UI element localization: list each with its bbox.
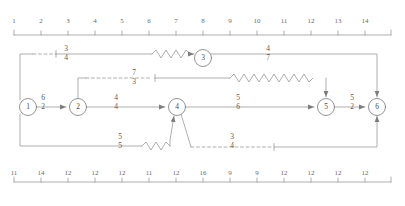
resistor-zigzag-top: [152, 50, 190, 58]
node-2-label: 2: [71, 100, 85, 114]
path-node3-to-node6: [211, 54, 377, 97]
node-5-label: 5: [319, 100, 333, 114]
edge-label-denominator: 5: [107, 141, 133, 150]
top-ruler-axis: [14, 30, 391, 35]
top-tick-label: 14: [355, 17, 375, 25]
edge-label-denominator: 6: [225, 102, 251, 111]
edge-label-numerator: 5: [225, 93, 251, 102]
bottom-tick-label: 12: [58, 169, 78, 177]
resistor-zigzag-bottom: [142, 142, 170, 150]
bottom-tick-label: 11: [139, 169, 159, 177]
edge-label-denominator: 2: [339, 102, 365, 111]
edge-label-denominator: 3: [121, 77, 147, 86]
top-tick-label: 1: [4, 17, 24, 25]
bottom-tick-label: 12: [112, 169, 132, 177]
edge-label-numerator: 6: [30, 93, 56, 102]
top-tick-label: 3: [58, 17, 78, 25]
edge-label-denominator: 4: [53, 53, 79, 62]
edge-label-denominator: 4: [103, 102, 129, 111]
bottom-tick-label: 12: [328, 169, 348, 177]
diagram-canvas: 1 2 3 4 5 6 7 8 9 10 11 12 13 14 11 14 1…: [0, 0, 405, 206]
top-tick-label: 7: [166, 17, 186, 25]
edge-label-1-to-2: 6 2: [30, 93, 56, 111]
edge-label-denominator: 2: [30, 102, 56, 111]
bottom-tick-label: 12: [166, 169, 186, 177]
node-3-label: 3: [196, 51, 210, 65]
edge-label-denominator: 7: [255, 53, 281, 62]
edge-label-node3-right: 4 7: [255, 44, 281, 62]
bottom-tick-label: 12: [301, 169, 321, 177]
edge-label-2-to-4: 4 4: [103, 93, 129, 111]
top-tick-label: 6: [139, 17, 159, 25]
node-6-label: 6: [370, 100, 384, 114]
top-tick-label: 10: [247, 17, 267, 25]
edge-label-numerator: 5: [339, 93, 365, 102]
edge-label-numerator: 5: [107, 132, 133, 141]
bottom-tick-label: 14: [31, 169, 51, 177]
node-4-label: 4: [170, 100, 184, 114]
top-tick-label: 2: [31, 17, 51, 25]
edge-label-numerator: 4: [103, 93, 129, 102]
edge-label-dashed-mid: 7 3: [121, 68, 147, 86]
resistor-zigzag-mid: [230, 74, 313, 82]
top-tick-label: 13: [328, 17, 348, 25]
bottom-tick-label: 9: [247, 169, 267, 177]
edge-label-4-to-5: 5 6: [225, 93, 251, 111]
edge-label-bottom-dashed: 3 4: [219, 132, 245, 150]
bottom-tick-label: 9: [220, 169, 240, 177]
edge-label-numerator: 3: [53, 44, 79, 53]
bottom-tick-label: 12: [355, 169, 375, 177]
bottom-tick-label: 11: [4, 169, 24, 177]
edge-label-numerator: 7: [121, 68, 147, 77]
path-bottom-branch: [20, 114, 174, 150]
edge-label-top-left: 3 4: [53, 44, 79, 62]
top-tick-label: 9: [220, 17, 240, 25]
top-tick-label: 12: [301, 17, 321, 25]
top-tick-label: 4: [85, 17, 105, 25]
bottom-ruler-axis: [14, 177, 391, 182]
edge-label-denominator: 4: [219, 141, 245, 150]
edge-label-5-to-6: 5 2: [339, 93, 365, 111]
bottom-tick-label: 12: [85, 169, 105, 177]
top-tick-label: 8: [193, 17, 213, 25]
top-tick-label: 11: [274, 17, 294, 25]
edge-label-numerator: 3: [219, 132, 245, 141]
top-tick-label: 5: [112, 17, 132, 25]
bottom-tick-label: 12: [274, 169, 294, 177]
bottom-tick-label: 16: [193, 169, 213, 177]
edge-label-numerator: 4: [255, 44, 281, 53]
edge-label-bottom-left: 5 5: [107, 132, 133, 150]
path-bottom-dashed-branch: [181, 114, 377, 151]
